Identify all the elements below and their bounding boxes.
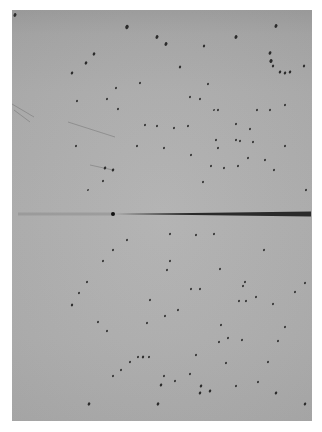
- diffraction-spot: [272, 303, 275, 306]
- diffraction-spot: [156, 125, 159, 128]
- diffraction-spot: [202, 181, 205, 184]
- scratch: [90, 165, 113, 170]
- diffraction-spot: [76, 100, 79, 103]
- diffraction-spot: [242, 285, 245, 288]
- diffraction-spot: [283, 71, 286, 75]
- diffraction-spot: [213, 109, 215, 112]
- diffraction-spot: [305, 189, 308, 192]
- diffraction-spot: [225, 362, 228, 365]
- diffraction-spot: [235, 385, 238, 388]
- diffraction-spot: [86, 281, 89, 284]
- diffraction-spot: [120, 369, 123, 372]
- diffraction-spot: [252, 141, 255, 144]
- diffraction-spot: [156, 402, 160, 406]
- diffraction-spot: [190, 154, 193, 157]
- diffraction-spot: [288, 70, 291, 74]
- diffraction-spot: [75, 145, 78, 148]
- diffraction-spot: [269, 59, 273, 64]
- diffraction-spot: [163, 375, 166, 378]
- diffraction-spot: [126, 239, 129, 242]
- diffraction-spot: [284, 145, 287, 148]
- diffraction-spot: [97, 321, 100, 324]
- diffraction-spot: [195, 354, 198, 357]
- diffraction-spot: [255, 296, 258, 299]
- scratch: [14, 110, 30, 122]
- diffraction-spot: [268, 51, 272, 55]
- diffraction-spot: [169, 260, 172, 263]
- diffraction-spot: [146, 322, 149, 325]
- diffraction-spot: [302, 64, 305, 68]
- diffraction-spot: [103, 166, 106, 170]
- diffraction-spot: [198, 391, 201, 395]
- diffraction-spot: [238, 300, 241, 303]
- diffraction-spot: [115, 87, 118, 90]
- diffraction-spot: [78, 292, 81, 295]
- diffraction-spot: [139, 82, 142, 85]
- diffraction-spot: [208, 389, 211, 393]
- diffraction-spot: [70, 71, 73, 75]
- diffraction-spot: [213, 233, 216, 236]
- diffraction-spot: [264, 159, 267, 162]
- scratch: [68, 122, 115, 137]
- diffraction-spot: [249, 128, 252, 131]
- diffraction-spot: [235, 123, 238, 126]
- diffraction-spot: [237, 165, 240, 168]
- diffraction-spot: [239, 140, 242, 143]
- diffraction-spot: [303, 402, 306, 406]
- diffraction-spot: [106, 98, 109, 101]
- diffraction-spot: [199, 288, 202, 291]
- diffraction-spot: [70, 303, 73, 307]
- diffraction-spot: [87, 402, 91, 406]
- diffraction-spot: [137, 356, 140, 359]
- diffraction-spot: [247, 157, 250, 160]
- diffraction-spot: [263, 249, 266, 252]
- diffraction-spot: [164, 315, 167, 318]
- diffraction-spot: [148, 356, 151, 359]
- diffraction-spot: [164, 42, 168, 47]
- diffraction-spot: [166, 269, 169, 272]
- diffraction-spot: [245, 300, 248, 303]
- diffraction-spot: [274, 391, 277, 395]
- diffraction-spot: [234, 35, 238, 40]
- diffraction-spot: [125, 24, 130, 29]
- diffraction-spot: [271, 64, 274, 68]
- diffraction-spot: [284, 104, 287, 107]
- diffraction-spot: [215, 139, 218, 142]
- diffraction-spot: [273, 169, 276, 172]
- diffraction-spot: [112, 249, 115, 252]
- diffraction-spot: [269, 109, 272, 112]
- diffraction-spot: [202, 44, 205, 48]
- beam-stop-shadow: [113, 212, 311, 217]
- diffraction-spot: [129, 361, 132, 364]
- diffraction-spot: [267, 361, 270, 364]
- diffraction-spot: [244, 281, 247, 284]
- diffraction-spot: [199, 98, 202, 101]
- diffraction-spot: [217, 147, 220, 150]
- diffraction-spot: [190, 288, 193, 291]
- diffraction-spot: [102, 260, 105, 263]
- diffraction-spot: [189, 373, 192, 376]
- diffraction-spot: [149, 299, 152, 302]
- diffraction-spot: [187, 125, 190, 128]
- diffraction-spot: [235, 139, 238, 142]
- diffraction-spot: [111, 168, 114, 172]
- beam-center: [111, 212, 115, 216]
- diffraction-spot: [112, 375, 115, 378]
- diffraction-spot: [256, 109, 259, 112]
- diffraction-spot: [169, 233, 172, 236]
- diffraction-spot: [207, 83, 210, 86]
- diffraction-spot: [304, 282, 307, 285]
- diffraction-spot: [217, 109, 220, 112]
- diffraction-spot: [136, 145, 139, 148]
- diffraction-spot: [141, 355, 144, 359]
- diffraction-spot: [159, 383, 162, 387]
- diffraction-spot: [174, 380, 177, 383]
- diffraction-spot: [117, 108, 120, 111]
- diffraction-spot: [223, 167, 226, 170]
- diffraction-spot: [278, 70, 281, 74]
- diffraction-spot: [257, 381, 260, 384]
- diffraction-spot: [210, 165, 213, 168]
- diffraction-spot: [13, 13, 17, 18]
- diffraction-spot: [219, 268, 222, 271]
- diffraction-spot: [274, 24, 278, 29]
